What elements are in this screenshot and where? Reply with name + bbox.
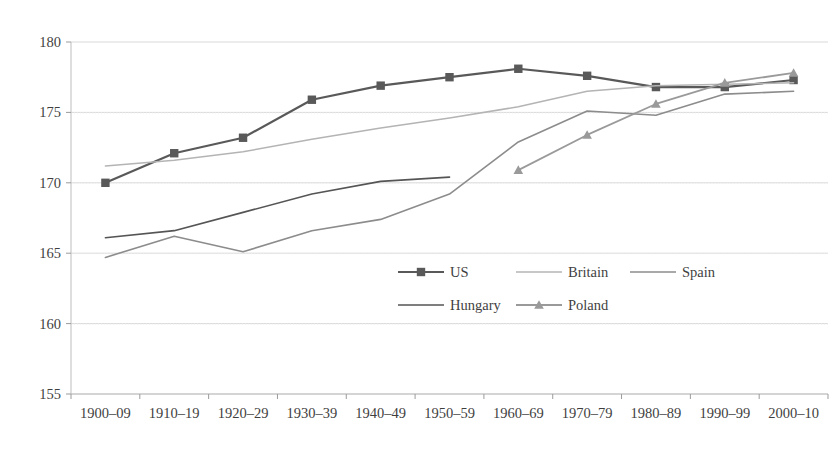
x-tick-label: 1920–29 [218,405,269,421]
series-spain [105,91,793,257]
y-tick-label: 180 [39,34,61,50]
axes [71,42,828,394]
series-marker [445,73,453,81]
series-marker [514,165,524,174]
y-axis-ticks: 155160165170175180 [39,34,71,402]
x-tick-label: 1990–99 [699,405,750,421]
y-tick-label: 165 [39,245,61,261]
series-us [101,65,798,187]
series-marker [582,130,592,139]
x-tick-label: 1940–49 [355,405,406,421]
series-marker [308,96,316,104]
x-tick-label: 1970–79 [562,405,613,421]
y-tick-label: 175 [39,104,61,120]
series-hungary [105,177,449,238]
chart-container: 1551601651701751801900–091910–191920–291… [0,0,838,454]
legend-label: US [450,264,469,280]
legend-label: Spain [682,264,716,280]
x-axis-ticks: 1900–091910–191920–291930–391940–491950–… [71,394,828,421]
legend-item-hungary[interactable]: Hungary [398,297,501,313]
legend-item-us[interactable]: US [398,264,469,280]
x-tick-label: 2000–10 [768,405,819,421]
x-tick-label: 1930–39 [286,405,337,421]
x-tick-label: 1910–19 [149,405,200,421]
legend-item-britain[interactable]: Britain [516,264,609,280]
series-marker [789,68,799,77]
series-marker [514,65,522,73]
series-britain [105,83,793,166]
series-marker [376,81,384,89]
series-line [105,83,793,166]
y-tick-label: 160 [39,316,61,332]
x-tick-label: 1900–09 [80,405,131,421]
y-tick-label: 170 [39,175,61,191]
x-tick-label: 1960–69 [493,405,544,421]
gridlines [71,42,828,395]
chart-svg: 1551601651701751801900–091910–191920–291… [0,0,838,454]
series-marker [583,72,591,80]
x-tick-label: 1980–89 [631,405,682,421]
line-chart: 1551601651701751801900–091910–191920–291… [0,0,838,454]
series-marker [239,134,247,142]
series-line [105,91,793,257]
series-line [105,177,449,238]
series-marker [170,149,178,157]
legend: USBritainSpainHungaryPoland [398,264,716,313]
legend-item-poland[interactable]: Poland [516,297,609,313]
legend-item-spain[interactable]: Spain [630,264,716,280]
y-tick-label: 155 [39,386,61,402]
legend-label: Poland [568,297,609,313]
series-group [101,65,798,258]
series-marker [101,179,109,187]
legend-swatch-marker [417,268,425,276]
series-line [105,69,793,183]
legend-label: Hungary [450,297,501,313]
legend-label: Britain [568,264,609,280]
series-marker [652,83,660,91]
x-tick-label: 1950–59 [424,405,475,421]
